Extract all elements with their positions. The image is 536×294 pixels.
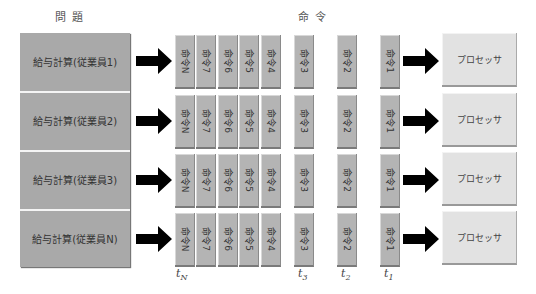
processor-box: プロセッサ [442,211,517,265]
instruction-label: 命令2 [340,227,353,251]
arrow-right-icon [403,108,439,134]
instruction-label: 命令5 [242,168,255,192]
instruction-block: 命令N [175,35,195,89]
problem-row-3: 給与計算(従業員3) [20,151,130,208]
instruction-block: 命令N [175,154,195,208]
time-label-t2: t2 [341,267,351,282]
instruction-header: 命令 [298,8,332,24]
instruction-block: 命令3 [294,154,314,208]
instruction-block: 命令6 [218,35,238,89]
instruction-block: 命令7 [196,35,216,89]
instruction-label: 命令4 [264,109,277,133]
instruction-block: 命令N [175,95,195,149]
instruction-block: 命令N [175,213,195,267]
arrow-right-icon [403,167,439,193]
instruction-label: 命令3 [297,168,310,192]
time-label-t1: t1 [384,267,394,282]
instruction-block: 命令7 [196,213,216,267]
instruction-label: 命令N [178,49,191,74]
instruction-label: 命令1 [383,227,396,251]
problem-box: 給与計算(従業員1) 給与計算(従業員2) 給与計算(従業員3) 給与計算(従業… [20,33,130,267]
instruction-block: 命令4 [261,35,281,89]
instruction-label: 命令1 [383,109,396,133]
instruction-label: 命令6 [221,49,234,73]
time-label-t3: t3 [298,267,308,282]
arrow-right-icon [403,226,439,252]
instruction-label: 命令7 [199,227,212,251]
instruction-block: 命令5 [239,154,259,208]
instruction-block: 命令4 [261,154,281,208]
instruction-block: 命令5 [239,95,259,149]
instruction-label: 命令N [178,109,191,134]
instruction-label: 命令3 [297,227,310,251]
instruction-label: 命令5 [242,49,255,73]
instruction-block: 命令6 [218,95,238,149]
instruction-label: 命令7 [199,49,212,73]
problem-row-N: 給与計算(従業員N) [20,210,130,267]
instruction-block: 命令6 [218,154,238,208]
instruction-block: 命令1 [380,213,400,267]
instruction-block: 命令5 [239,213,259,267]
instruction-block: 命令2 [337,213,357,267]
instruction-block: 命令7 [196,95,216,149]
arrow-right-icon [136,48,172,74]
instruction-label: 命令3 [297,109,310,133]
instruction-block: 命令2 [337,154,357,208]
instruction-block: 命令4 [261,213,281,267]
arrow-right-icon [136,108,172,134]
instruction-label: 命令N [178,168,191,193]
arrow-right-icon [136,226,172,252]
instruction-label: 命令4 [264,168,277,192]
instruction-block: 命令2 [337,35,357,89]
instruction-label: 命令4 [264,49,277,73]
instruction-label: 命令7 [199,168,212,192]
problem-row-1: 給与計算(従業員1) [20,33,130,90]
instruction-label: 命令7 [199,109,212,133]
instruction-block: 命令4 [261,95,281,149]
instruction-label: 命令2 [340,109,353,133]
arrow-right-icon [136,167,172,193]
instruction-label: 命令6 [221,168,234,192]
instruction-block: 命令1 [380,154,400,208]
processor-box: プロセッサ [442,93,517,147]
instruction-label: 命令N [178,227,191,252]
problem-header: 問題 [55,8,89,24]
instruction-block: 命令5 [239,35,259,89]
arrow-right-icon [403,48,439,74]
instruction-block: 命令2 [337,95,357,149]
instruction-block: 命令1 [380,35,400,89]
instruction-block: 命令1 [380,95,400,149]
instruction-label: 命令2 [340,49,353,73]
instruction-label: 命令5 [242,109,255,133]
problem-row-2: 給与計算(従業員2) [20,92,130,149]
instruction-block: 命令3 [294,35,314,89]
instruction-block: 命令7 [196,154,216,208]
instruction-block: 命令3 [294,213,314,267]
instruction-label: 命令3 [297,49,310,73]
instruction-label: 命令4 [264,227,277,251]
instruction-block: 命令3 [294,95,314,149]
instruction-block: 命令6 [218,213,238,267]
instruction-label: 命令1 [383,49,396,73]
instruction-label: 命令6 [221,109,234,133]
instruction-label: 命令2 [340,168,353,192]
processor-box: プロセッサ [442,33,517,87]
processor-box: プロセッサ [442,152,517,206]
time-label-tN: tN [176,267,187,282]
instruction-label: 命令5 [242,227,255,251]
instruction-label: 命令1 [383,168,396,192]
instruction-label: 命令6 [221,227,234,251]
